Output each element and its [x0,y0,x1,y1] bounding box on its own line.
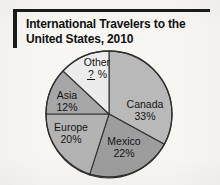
pie-label-asia-value: 12% [45,102,89,114]
pie-label-europe: Europe 20% [44,122,98,145]
pie-chart: Canada 33% Mexico 22% Europe 20% Asia 12… [0,50,220,185]
page-title-line-1: International Travelers to the [26,17,206,32]
pie-label-asia: Asia 12% [45,90,89,113]
pie-label-europe-value: 20% [44,134,98,146]
pie-label-mexico: Mexico 22% [97,136,151,159]
unknown-value-blank: ? [87,69,95,80]
pie-chart-figure: International Travelers to the United St… [0,0,220,185]
pie-label-mexico-value: 22% [97,148,151,160]
pie-label-canada: Canada 33% [118,99,172,122]
page-title-line-2: United States, 2010 [26,32,206,47]
pie-label-other-value-row: ? % [73,69,121,81]
pie-label-other-unit: % [98,68,107,80]
chart-title-box: International Travelers to the United St… [13,9,210,48]
pie-label-asia-name: Asia [45,90,89,102]
pie-label-other: Other ? % [73,57,121,80]
pie-label-europe-name: Europe [44,122,98,134]
pie-label-canada-value: 33% [118,111,172,123]
pie-label-canada-name: Canada [118,99,172,111]
pie-label-mexico-name: Mexico [97,136,151,148]
